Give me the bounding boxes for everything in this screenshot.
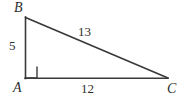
side-length-label-ac: 12	[81, 82, 94, 95]
side-length-label-bc: 13	[78, 25, 91, 38]
segment-bc	[26, 18, 169, 79]
vertex-label-a: A	[13, 81, 22, 95]
vertex-label-c: C	[167, 82, 176, 96]
right-angle-marker-icon	[25, 67, 37, 79]
geometry-figure: B A C 5 13 12	[0, 0, 188, 99]
side-length-label-ab: 5	[9, 39, 16, 52]
triangle-drawing	[0, 0, 188, 99]
vertex-label-b: B	[14, 1, 23, 15]
